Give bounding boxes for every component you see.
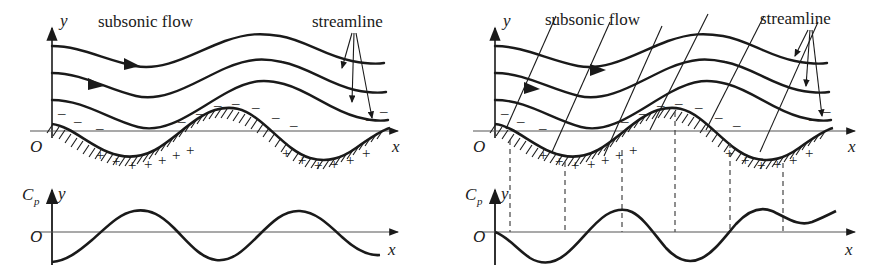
right-x-axis-label: x <box>847 137 856 156</box>
svg-text:+: + <box>571 157 579 173</box>
left-x-axis-label: x <box>391 137 400 156</box>
right-flow-label: subsonic flow <box>545 10 641 29</box>
left-cp-subscript: p <box>33 195 40 207</box>
svg-text:+: + <box>298 152 306 168</box>
svg-text:–: – <box>620 113 629 129</box>
svg-text:–: – <box>379 103 388 119</box>
svg-text:–: – <box>73 113 82 129</box>
svg-text:+: + <box>96 147 104 163</box>
panel-left: y x O subsonic flow streamline <box>22 11 400 265</box>
svg-text:+: + <box>282 145 290 161</box>
right-cp-x-label: x <box>844 240 853 259</box>
right-streamline-2 <box>495 60 829 98</box>
svg-text:–: – <box>822 103 831 119</box>
left-streamline-leaders <box>342 33 372 118</box>
figure-canvas: y x O subsonic flow streamline <box>0 0 886 278</box>
svg-text:–: – <box>808 111 817 127</box>
svg-text:–: – <box>656 97 665 113</box>
left-streamline-1 <box>52 34 384 67</box>
svg-text:–: – <box>251 99 260 115</box>
svg-text:–: – <box>177 113 186 129</box>
svg-text:+: + <box>555 153 563 169</box>
svg-text:+: + <box>144 156 152 172</box>
svg-text:–: – <box>694 99 703 115</box>
svg-text:+: + <box>314 157 322 173</box>
panel-right: y x O subsonic flow streamline <box>465 9 856 265</box>
right-mach-lines <box>506 14 818 156</box>
svg-text:+: + <box>601 152 609 168</box>
right-cp-curve <box>495 209 836 262</box>
svg-text:+: + <box>158 152 166 168</box>
left-streamline-label: streamline <box>312 12 383 31</box>
left-cp-curve <box>52 210 380 262</box>
right-streamline-label: streamline <box>760 9 831 28</box>
svg-text:–: – <box>271 109 280 125</box>
left-cp-origin-label: O <box>30 227 42 246</box>
right-streamline-1 <box>495 34 827 67</box>
svg-text:+: + <box>539 147 547 163</box>
svg-text:+: + <box>330 156 338 172</box>
svg-text:+: + <box>629 142 637 158</box>
svg-text:+: + <box>757 157 765 173</box>
svg-text:–: – <box>365 111 374 127</box>
svg-text:–: – <box>95 120 104 136</box>
svg-text:–: – <box>674 95 683 111</box>
right-dashed-guides <box>510 112 783 232</box>
right-y-axis-label: y <box>501 11 511 30</box>
svg-text:–: – <box>732 117 741 133</box>
svg-text:+: + <box>773 156 781 172</box>
svg-text:–: – <box>500 105 509 121</box>
svg-text:–: – <box>289 117 298 133</box>
svg-text:–: – <box>231 95 240 111</box>
svg-text:+: + <box>725 145 733 161</box>
svg-text:+: + <box>741 152 749 168</box>
svg-text:+: + <box>346 152 354 168</box>
left-cp-label: C <box>22 185 34 204</box>
svg-text:+: + <box>112 153 120 169</box>
svg-text:+: + <box>805 145 813 161</box>
svg-text:–: – <box>714 109 723 125</box>
right-cp-origin-label: O <box>473 227 485 246</box>
svg-text:–: – <box>638 105 647 121</box>
left-cp-x-label: x <box>387 240 396 259</box>
svg-text:+: + <box>587 156 595 172</box>
left-cp-y-label: y <box>56 184 66 203</box>
right-cp-label: C <box>465 185 477 204</box>
svg-text:–: – <box>516 113 525 129</box>
right-cp-subscript: p <box>476 195 483 207</box>
diagram-svg: y x O subsonic flow streamline <box>0 0 886 278</box>
left-origin-label: O <box>30 137 42 156</box>
svg-text:–: – <box>538 120 547 136</box>
svg-text:–: – <box>195 105 204 121</box>
svg-text:+: + <box>362 145 370 161</box>
svg-text:+: + <box>186 142 194 158</box>
left-flow-label: subsonic flow <box>98 12 194 31</box>
left-y-axis-label: y <box>58 11 68 30</box>
right-cp-y-label: y <box>499 184 509 203</box>
left-streamline-2 <box>52 60 386 98</box>
svg-text:–: – <box>57 105 66 121</box>
right-origin-label: O <box>473 137 485 156</box>
svg-text:+: + <box>128 157 136 173</box>
right-flow-arrows <box>524 64 606 94</box>
svg-text:+: + <box>172 147 180 163</box>
svg-text:+: + <box>789 152 797 168</box>
svg-text:–: – <box>213 97 222 113</box>
